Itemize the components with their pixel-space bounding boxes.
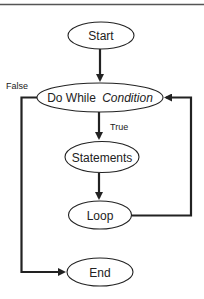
node-end: End: [67, 258, 133, 286]
node-loop: Loop: [69, 201, 132, 229]
node-end-label: End: [89, 266, 110, 280]
edge-label-false: False: [6, 81, 28, 91]
edge-label-true: True: [110, 122, 128, 132]
node-statements-label: Statements: [72, 151, 133, 165]
node-start-label: Start: [88, 29, 114, 43]
arrow-loop-to-condition: [132, 98, 192, 216]
arrow-condition-false-to-end: [22, 98, 65, 273]
node-condition: Do While Condition: [37, 83, 163, 112]
flowchart: Start Do While Condition False True Stat…: [0, 0, 204, 299]
node-statements: Statements: [65, 142, 139, 173]
node-condition-label-prefix: Do While: [47, 91, 96, 105]
node-start: Start: [68, 22, 134, 49]
node-condition-label-italic: Condition: [102, 91, 153, 105]
node-loop-label: Loop: [87, 209, 114, 223]
